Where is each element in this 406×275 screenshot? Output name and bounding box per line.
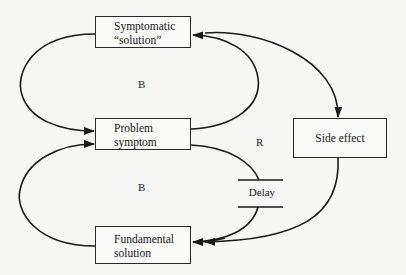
arrow-problem-to-symptomatic (191, 35, 258, 129)
loop-label-reinforcing: R (256, 136, 263, 148)
node-label-line2: solution (114, 246, 190, 260)
node-label-line2: symptom (114, 135, 190, 149)
delay-label: Delay (240, 186, 284, 198)
node-label-line1: Fundamental (114, 232, 190, 246)
arrow-symptomatic-to-side-effect (205, 32, 338, 117)
arrow-side-effect-to-fundamental (205, 158, 338, 242)
arrow-fundamental-to-problem (19, 144, 95, 246)
arrow-symptomatic-to-problem (20, 34, 95, 131)
node-label-line1: Problem (114, 121, 190, 135)
node-symptomatic-solution: Symptomatic “solution” (95, 16, 191, 48)
node-label-line1: Side effect (294, 131, 386, 145)
node-problem-symptom: Problem symptom (95, 118, 191, 150)
node-label-line2: “solution” (114, 33, 190, 47)
loop-label-balancing-top: B (138, 78, 145, 90)
node-fundamental-solution: Fundamental solution (95, 226, 191, 264)
loop-label-balancing-bottom: B (138, 181, 145, 193)
node-side-effect: Side effect (293, 118, 387, 158)
node-label-line1: Symptomatic (114, 19, 190, 33)
